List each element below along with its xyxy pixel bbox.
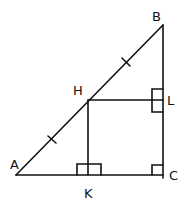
right-angle-marker-C (152, 165, 163, 175)
label-B: B (152, 9, 161, 24)
label-L: L (167, 93, 175, 108)
geometry-diagram: A B C H L K (0, 0, 189, 205)
label-H: H (73, 83, 83, 98)
label-C: C (169, 168, 178, 183)
label-A: A (10, 157, 19, 172)
right-angle-marker-K (77, 164, 101, 175)
label-K: K (84, 186, 93, 201)
